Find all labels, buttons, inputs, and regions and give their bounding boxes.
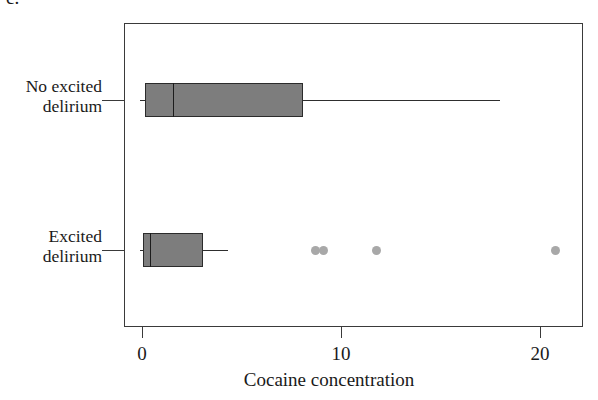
box-body (143, 233, 203, 267)
x-axis-title-text: Cocaine concentration (184, 370, 414, 389)
box-outlier-point (319, 246, 328, 255)
panel-letter: c. (6, 0, 19, 7)
y-category-label: Exciteddelirium (0, 227, 102, 266)
x-axis-tick-label: 10 (311, 344, 371, 363)
y-category-tick (102, 250, 124, 251)
chart-page: c. No exciteddeliriumExciteddelirium 010… (0, 0, 598, 400)
y-category-tick (102, 100, 124, 101)
y-category-label-line: No excited (0, 77, 102, 97)
x-axis-tick (142, 327, 143, 338)
y-category-label-line: delirium (0, 97, 102, 117)
x-axis-tick-label: 0 (112, 344, 172, 363)
box-outlier-point (372, 246, 381, 255)
x-axis-tick (540, 327, 541, 338)
box-outlier-point (551, 246, 560, 255)
y-category-label-line: delirium (0, 247, 102, 267)
box-body (145, 83, 303, 117)
x-axis-tick-label: 20 (510, 344, 570, 363)
x-axis-title: Cocaine concentration (0, 370, 598, 389)
y-category-label-line: Excited (0, 227, 102, 247)
box-median-line (150, 233, 151, 267)
plot-area (124, 23, 583, 327)
box-median-line (173, 83, 174, 117)
x-axis-tick (341, 327, 342, 338)
y-category-label: No exciteddelirium (0, 77, 102, 116)
